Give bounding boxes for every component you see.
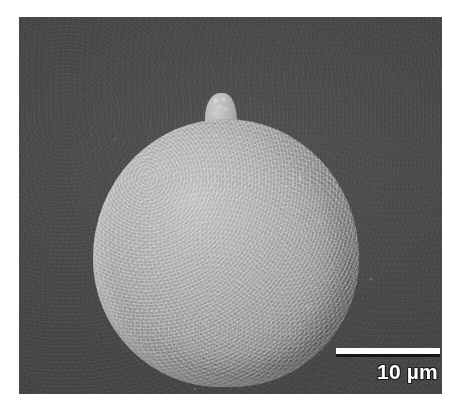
sem-micrograph-image: 10 µm	[19, 17, 442, 394]
scale-bar-line	[336, 348, 440, 357]
scale-bar-group: 10 µm	[332, 348, 440, 382]
background-debris-specks	[19, 17, 442, 394]
figure-root: 10 µm	[0, 0, 456, 414]
scale-bar-label: 10 µm	[332, 361, 440, 382]
